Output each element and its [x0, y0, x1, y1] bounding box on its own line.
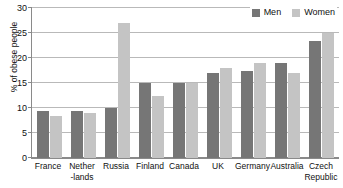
y-tick-label-0: 0: [22, 154, 27, 163]
bar-women: [186, 83, 198, 158]
x-axis-label: UK: [201, 161, 235, 188]
bar-group: [271, 8, 305, 158]
y-tick-label-30: 30: [17, 4, 27, 13]
bar-men: [275, 63, 287, 158]
x-axis-label: Australia: [270, 161, 304, 188]
y-tick-label-25: 25: [17, 29, 27, 38]
bar-group: [203, 8, 237, 158]
women-swatch-icon: [292, 9, 300, 17]
x-axis-label: Nether -lands: [65, 161, 99, 188]
y-axis-tick-labels: 051015202530: [0, 0, 30, 188]
bar-women: [288, 73, 300, 158]
x-axis-label: Czech Republic: [304, 161, 338, 188]
obesity-bar-chart: % of obese people 051015202530 FranceNet…: [0, 0, 343, 188]
x-axis-label: France: [31, 161, 65, 188]
chart-legend: MenWomen: [250, 7, 337, 18]
bar-men: [71, 111, 83, 159]
bar-women: [322, 33, 334, 158]
bar-group: [100, 8, 134, 158]
men-swatch-icon: [252, 9, 260, 17]
x-axis-category-labels: FranceNether -landsRussiaFinlandCanadaUK…: [31, 161, 338, 188]
bar-women: [220, 68, 232, 158]
bar-men: [207, 73, 219, 158]
legend-label: Women: [304, 8, 335, 17]
bar-men: [309, 41, 321, 159]
bar-men: [37, 111, 49, 159]
x-axis-label: Russia: [99, 161, 133, 188]
x-axis-label: Canada: [167, 161, 201, 188]
bar-men: [105, 108, 117, 158]
bar-women: [152, 96, 164, 159]
bar-women: [84, 113, 96, 158]
legend-item-women: Women: [292, 8, 335, 17]
bar-group: [305, 8, 339, 158]
bar-groups: [32, 8, 339, 158]
bar-women: [50, 116, 62, 159]
plot-area: [31, 8, 339, 159]
bar-group: [168, 8, 202, 158]
bar-men: [173, 83, 185, 158]
legend-item-men: Men: [252, 8, 282, 17]
bar-group: [237, 8, 271, 158]
y-tick-label-10: 10: [17, 104, 27, 113]
bar-men: [139, 83, 151, 158]
bar-group: [66, 8, 100, 158]
bar-group: [32, 8, 66, 158]
bar-group: [134, 8, 168, 158]
x-axis-label: Germany: [235, 161, 270, 188]
legend-label: Men: [264, 8, 282, 17]
y-tick-label-20: 20: [17, 54, 27, 63]
y-tick-label-5: 5: [22, 129, 27, 138]
bar-men: [241, 71, 253, 159]
bar-women: [254, 63, 266, 158]
y-tick-label-15: 15: [17, 79, 27, 88]
bar-women: [118, 23, 130, 158]
x-axis-label: Finland: [133, 161, 167, 188]
